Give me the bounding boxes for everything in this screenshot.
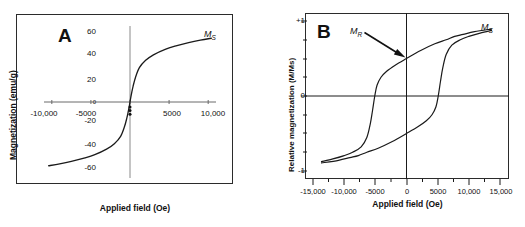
panel-b-ms-subscript: S (489, 27, 493, 34)
panel-b-mr-label: MR (350, 27, 362, 38)
panel-a-xtick-minus10000: -10,000 (24, 110, 64, 118)
panel-a-plot (16, 14, 233, 184)
panel-b-mr-arrow (365, 33, 406, 58)
panel-b-ms-label: MS (481, 23, 493, 34)
panel-a-yaxis-title: Magnetization (emu/g) (8, 70, 18, 160)
panel-a-ms-subscript: S (212, 34, 216, 41)
panel-b-xtick-15000: 15,000 (482, 188, 520, 196)
panel-a-ytick-0: 0 (74, 99, 96, 105)
panel-b-ms-symbol: M (481, 22, 489, 32)
panel-b-ytick-marks (300, 13, 307, 179)
panel-a-ytick-minus20: -20 (70, 117, 96, 125)
panel-b-xtick-marks (305, 179, 509, 186)
panel-b-yaxis-title: Relative magnetization (M/Ms) (287, 58, 296, 172)
panel-b-xtick-minus5000: -5000 (358, 188, 392, 196)
panel-b-plot (305, 13, 509, 179)
panel-a-ytick-minus60: -60 (70, 164, 96, 172)
panel-a-xaxis-title: Applied field (Oe) (55, 203, 215, 213)
panel-b-xtick-5000: 5000 (423, 188, 453, 196)
figure-canvas: A 60 40 20 0 -20 -40 -60 -10,000 -5000 5… (0, 0, 525, 227)
panel-a-xtick-5000: 5000 (156, 110, 188, 118)
panel-b-xaxis-title: Applied field (Oe) (325, 199, 490, 209)
panel-a-ytick-40: 40 (74, 50, 96, 58)
panel-a-xtick-minus5000: -5000 (68, 110, 104, 118)
panel-b-mr-symbol: M (350, 26, 358, 36)
panel-a-ms-symbol: M (204, 29, 212, 39)
panel-b-xtick-0: 0 (397, 188, 417, 196)
panel-a-ms-label: MS (204, 30, 216, 41)
panel-a-xtick-10000: 10,000 (194, 110, 232, 118)
panel-b-mr-subscript: R (358, 31, 363, 38)
panel-a-ytick-60: 60 (74, 28, 96, 36)
panel-a-ytick-minus40: -40 (70, 141, 96, 149)
panel-a-ytick-20: 20 (74, 76, 96, 84)
